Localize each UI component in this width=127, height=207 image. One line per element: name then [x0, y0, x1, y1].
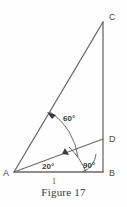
vertex-label-D: D: [109, 134, 116, 144]
side-labels: 1: [52, 177, 56, 186]
angle-label-20: 20°: [42, 162, 54, 171]
vertex-label-B: B: [109, 168, 115, 178]
figure-caption: Figure 17: [0, 186, 127, 198]
vertex-label-C: C: [109, 12, 116, 22]
vertex-label-A: A: [3, 168, 9, 178]
segment-hypotenuse-AC: [14, 22, 103, 172]
triangle-segments: [14, 22, 103, 172]
angle-label-90: 90°: [83, 161, 95, 170]
geometry-figure: A B C D 60° 20° 90° 1 Figure 17: [0, 0, 127, 207]
angle-labels: 60° 20° 90°: [42, 114, 95, 171]
side-label-AB-length: 1: [52, 177, 56, 186]
angle-label-60: 60°: [63, 114, 75, 123]
figure-canvas: A B C D 60° 20° 90° 1: [0, 0, 127, 207]
